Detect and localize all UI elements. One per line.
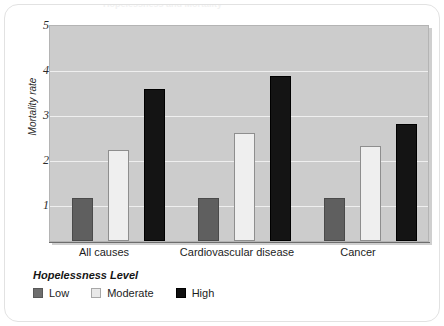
bar-all-causes-low xyxy=(72,198,93,241)
gridline-3 xyxy=(50,116,428,117)
bar-cvd-moderate xyxy=(234,133,255,242)
y-axis-label: Mortality rate xyxy=(27,52,38,162)
legend-label-low: Low xyxy=(49,287,69,299)
legend-item-high: High xyxy=(176,287,215,299)
cut-off-title: Hopelessness and Mortality xyxy=(103,4,273,9)
legend-swatch-moderate-icon xyxy=(91,288,101,298)
bar-cancer-high xyxy=(396,124,417,241)
x-tick-cancer: Cancer xyxy=(317,246,399,258)
bar-all-causes-high xyxy=(144,89,165,241)
legend-swatch-low-icon xyxy=(33,288,43,298)
legend-swatch-high-icon xyxy=(176,288,186,298)
bar-cancer-moderate xyxy=(360,146,381,241)
bar-cvd-low xyxy=(198,198,219,241)
x-tick-all-causes: All causes xyxy=(63,246,145,258)
y-tick-5: 5 xyxy=(25,18,49,33)
legend-label-moderate: Moderate xyxy=(107,287,153,299)
legend-item-low: Low xyxy=(33,287,69,299)
gridline-4 xyxy=(50,71,428,72)
bar-cancer-low xyxy=(324,198,345,241)
y-tick-1: 1 xyxy=(25,198,49,213)
legend-title: Hopelessness Level xyxy=(33,269,214,281)
legend-label-high: High xyxy=(192,287,215,299)
plot-area xyxy=(49,25,429,242)
legend-item-moderate: Moderate xyxy=(91,287,153,299)
x-tick-cvd: Cardiovascular disease xyxy=(167,246,307,258)
legend-items: Low Moderate High xyxy=(33,287,214,299)
chart-card: Hopelessness and Mortality 5 4 3 2 1 Mor… xyxy=(4,4,440,322)
plot-area-wrapper xyxy=(49,25,429,242)
bar-cvd-high xyxy=(270,76,291,241)
x-axis-line xyxy=(49,242,430,243)
legend: Hopelessness Level Low Moderate High xyxy=(33,269,214,299)
bar-all-causes-moderate xyxy=(108,150,129,241)
